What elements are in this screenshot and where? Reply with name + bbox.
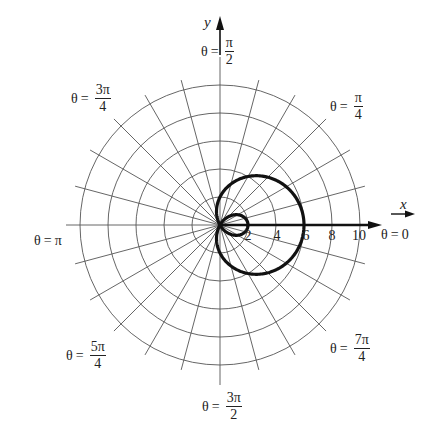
radial-tick-10: 10 [352,228,366,244]
radial-tick-8: 8 [329,228,336,244]
fraction: π2 [225,36,234,67]
equals-sign: = [211,44,219,60]
radial-tick-4: 4 [274,228,281,244]
grid-spoke [75,186,220,225]
angle-label-3pi-over-4: θ = 3π4 [71,83,111,114]
theta-symbol: θ [381,227,388,243]
grid-spoke [220,119,326,225]
radial-tick-6: 6 [303,228,310,244]
fraction: 3π2 [226,391,242,422]
grid-spoke [114,225,220,331]
angle-label-7pi-over-4: θ = 7π4 [330,333,370,364]
grid-spoke [145,225,220,355]
theta-symbol: θ [34,233,41,249]
grid-spoke [220,80,259,225]
fraction: π4 [354,91,363,122]
grid-spoke [75,225,220,264]
fraction: 5π4 [90,340,106,371]
fraction: 3π4 [95,83,111,114]
angle-label-5pi-over-4: θ = 5π4 [66,340,106,371]
x-axis-arrowhead-icon [368,221,382,229]
grid-spoke [181,80,220,225]
grid-spoke [90,225,220,300]
angle-value: 0 [402,227,409,243]
angle-label-pi-over-2: θ = π2 [201,36,234,67]
theta-symbol: θ [66,348,73,364]
grid-spoke [220,225,259,370]
grid-spoke [145,95,220,225]
equals-sign: = [391,227,399,243]
theta-symbol: θ [330,99,337,115]
angle-label-pi: θ = π [34,233,62,249]
angle-value: π [55,233,62,249]
x-axis-label: x [400,196,407,213]
fraction: 7π4 [354,333,370,364]
grid-spoke [90,150,220,225]
y-axis-label: y [204,14,211,31]
equals-sign: = [340,99,348,115]
polar-grid [66,57,365,385]
equals-sign: = [44,233,52,249]
equals-sign: = [212,399,220,415]
angle-label-pi-over-4: θ = π4 [330,91,363,122]
theta-symbol: θ [202,399,209,415]
theta-symbol: θ [330,341,337,357]
theta-symbol: θ [71,91,78,107]
grid-spoke [220,95,295,225]
equals-sign: = [340,341,348,357]
y-axis-arrowhead-icon [216,16,224,30]
angle-label-zero: θ = 0 [381,227,409,243]
grid-spoke [220,225,295,355]
grid-spoke [114,119,220,225]
theta-symbol: θ [201,44,208,60]
equals-sign: = [76,348,84,364]
angle-label-3pi-over-2: θ = 3π2 [202,391,242,422]
radial-tick-2: 2 [245,228,252,244]
grid-spoke [181,225,220,370]
equals-sign: = [81,91,89,107]
